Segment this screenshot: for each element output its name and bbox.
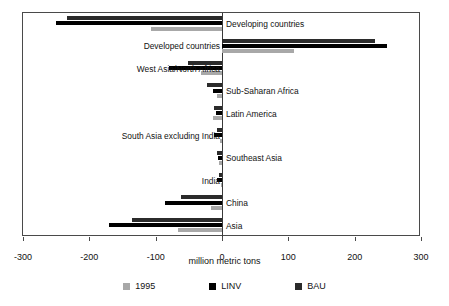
bar-1995 bbox=[217, 94, 222, 98]
x-tick-mark bbox=[355, 237, 356, 241]
bar-row: Latin America bbox=[23, 103, 421, 125]
x-axis-title: million metric tons bbox=[0, 256, 449, 266]
bar-row: China bbox=[23, 192, 421, 214]
bar-bau bbox=[181, 195, 222, 199]
bar-1995 bbox=[220, 139, 222, 143]
legend-swatch-icon bbox=[295, 283, 302, 290]
legend-item: 1995 bbox=[123, 281, 155, 291]
bar-1995 bbox=[219, 161, 222, 165]
bar-bau bbox=[67, 16, 222, 20]
bar-1995 bbox=[178, 228, 222, 232]
legend-item: LINV bbox=[209, 281, 241, 291]
bar-1995 bbox=[213, 116, 222, 120]
bar-linv bbox=[109, 223, 222, 227]
x-tick-mark bbox=[89, 237, 90, 241]
bar-row: Developing countries bbox=[23, 13, 421, 35]
category-label: China bbox=[226, 192, 248, 214]
bar-linv bbox=[56, 21, 222, 25]
chart-legend: 1995LINVBAU bbox=[0, 281, 449, 291]
bar-row: West Asia/North Africa bbox=[23, 58, 421, 80]
category-label: Developing countries bbox=[226, 13, 304, 35]
bar-bau bbox=[222, 39, 375, 43]
bar-bau bbox=[214, 106, 222, 110]
legend-label: LINV bbox=[221, 281, 241, 291]
x-tick-mark bbox=[156, 237, 157, 241]
bar-1995 bbox=[221, 183, 222, 187]
category-label: South Asia excluding India bbox=[122, 125, 220, 147]
chart-figure: Developing countriesDeveloped countriesW… bbox=[0, 0, 449, 306]
bar-row: South Asia excluding India bbox=[23, 125, 421, 147]
x-tick-mark bbox=[222, 237, 223, 241]
bar-row: Southeast Asia bbox=[23, 147, 421, 169]
category-label: Sub-Saharan Africa bbox=[226, 80, 299, 102]
category-label: Asia bbox=[226, 215, 242, 237]
bar-bau bbox=[132, 218, 222, 222]
category-label: India bbox=[202, 170, 220, 192]
bar-bau bbox=[217, 151, 222, 155]
bar-linv bbox=[222, 44, 387, 48]
bar-1995 bbox=[151, 27, 222, 31]
bar-row: India bbox=[23, 170, 421, 192]
bar-bau bbox=[207, 83, 222, 87]
legend-swatch-icon bbox=[209, 283, 216, 290]
category-label: Southeast Asia bbox=[226, 147, 282, 169]
bar-linv bbox=[216, 111, 222, 115]
legend-label: 1995 bbox=[135, 281, 155, 291]
bar-linv bbox=[218, 156, 222, 160]
category-label: Developed countries bbox=[144, 35, 220, 57]
category-label: West Asia/North Africa bbox=[137, 58, 220, 80]
legend-swatch-icon bbox=[123, 283, 130, 290]
x-tick-mark bbox=[421, 237, 422, 241]
bar-row: Asia bbox=[23, 215, 421, 237]
category-label: Latin America bbox=[226, 103, 277, 125]
bar-1995 bbox=[222, 49, 294, 53]
x-tick-mark bbox=[288, 237, 289, 241]
bar-linv bbox=[165, 201, 222, 205]
bar-row: Sub-Saharan Africa bbox=[23, 80, 421, 102]
x-tick-mark bbox=[23, 237, 24, 241]
bar-row: Developed countries bbox=[23, 35, 421, 57]
legend-label: BAU bbox=[307, 281, 326, 291]
legend-item: BAU bbox=[295, 281, 326, 291]
plot-area: Developing countriesDeveloped countriesW… bbox=[22, 12, 420, 236]
bar-linv bbox=[213, 89, 222, 93]
bar-1995 bbox=[211, 206, 222, 210]
